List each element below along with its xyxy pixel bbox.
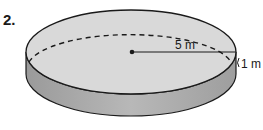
height-brace xyxy=(238,58,240,67)
cylinder-diagram: 5 m 1 m xyxy=(0,0,263,130)
radius-label: 5 m xyxy=(175,38,195,52)
height-label: 1 m xyxy=(241,57,261,71)
